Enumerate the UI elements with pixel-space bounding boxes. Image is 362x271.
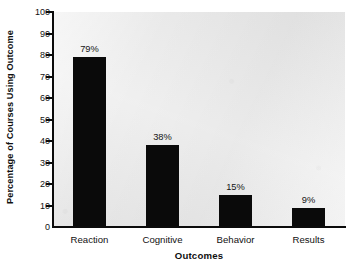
y-axis-tick-labels: 0102030405060708090100 [20,0,50,271]
bar-chart-figure: 0102030405060708090100 79%38%15%9% React… [0,0,362,271]
y-axis-tick-label: 40 [20,136,50,146]
y-axis-tick-label: 80 [20,50,50,60]
y-axis-tick-label: 30 [20,158,50,168]
x-axis-line [52,226,346,228]
x-axis-title: Outcomes [53,250,345,261]
bar-behavior [219,195,252,227]
bar-value-label: 38% [133,132,193,142]
bar-reaction [73,57,106,227]
y-axis-tick-label: 60 [20,93,50,103]
y-axis-tick-label: 100 [20,7,50,17]
bar-results [292,208,325,227]
y-axis-tick-label: 70 [20,72,50,82]
bar-value-label: 79% [60,44,120,54]
y-axis-title: Percentage of Courses Using Outcome [5,1,19,233]
bar-value-label: 9% [279,195,339,205]
y-axis-tick-label: 20 [20,179,50,189]
y-axis-tick-label: 10 [20,201,50,211]
x-axis-category-label: Results [264,234,354,245]
y-axis-tick-label: 50 [20,115,50,125]
bar-value-label: 15% [206,182,266,192]
bar-cognitive [146,145,179,227]
y-axis-tick-label: 0 [20,222,50,232]
y-axis-tick-label: 90 [20,29,50,39]
